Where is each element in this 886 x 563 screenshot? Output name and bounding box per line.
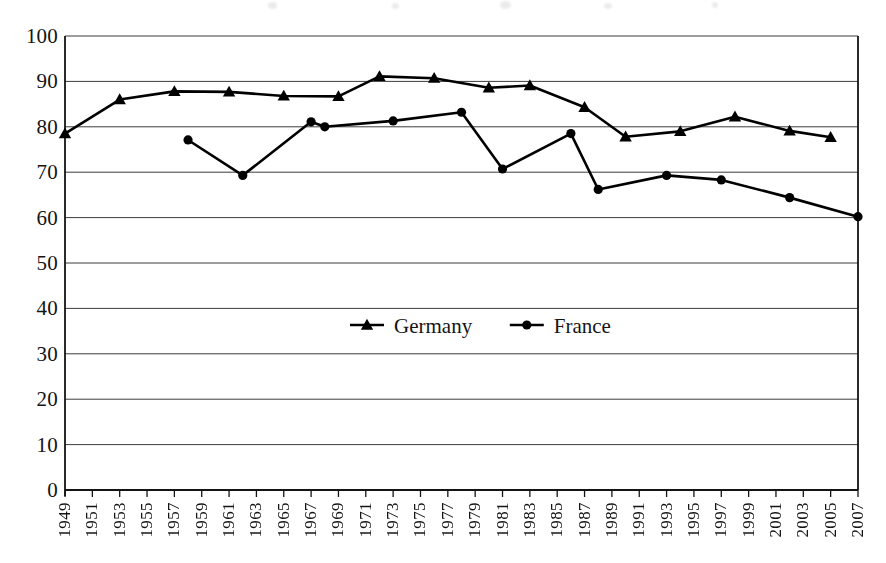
- x-tick-label: 1971: [357, 502, 374, 538]
- x-tick-label: 2003: [794, 502, 811, 538]
- x-tick-label: 1965: [275, 502, 292, 538]
- x-tick-label: 1953: [111, 502, 128, 538]
- x-tick-label: 1949: [56, 502, 73, 538]
- x-tick-label: 1999: [740, 502, 757, 538]
- x-tick-label: 2007: [849, 502, 866, 538]
- x-tick-label: 1951: [83, 502, 100, 538]
- x-tick-label: 1955: [138, 502, 155, 538]
- chart-figure: GermanyFrance 0102030405060708090100 194…: [0, 0, 886, 563]
- x-tick-label: 1995: [685, 502, 702, 538]
- x-tick-label: 2005: [822, 502, 839, 538]
- x-tick-label: 1987: [576, 502, 593, 538]
- x-tick-label: 1961: [220, 502, 237, 538]
- x-tick-label: 1977: [439, 502, 456, 538]
- x-tick-label: 1993: [658, 502, 675, 538]
- x-tick-label: 1973: [384, 502, 401, 538]
- x-tick-label: 1969: [329, 502, 346, 538]
- x-tick-label: 1981: [494, 502, 511, 538]
- x-tick-label: 1985: [548, 502, 565, 538]
- x-tick-label: 1989: [603, 502, 620, 538]
- x-tick-label: 1975: [411, 502, 428, 538]
- x-tick-label: 1997: [712, 502, 729, 538]
- x-tick-label: 1963: [247, 502, 264, 538]
- x-tick-label: 1957: [165, 502, 182, 538]
- x-tick-label: 1979: [466, 502, 483, 538]
- x-tick-label: 1959: [193, 502, 210, 538]
- x-tick-label: 1967: [302, 502, 319, 538]
- x-axis-tick-labels: 1949195119531955195719591961196319651967…: [0, 0, 886, 563]
- x-tick-label: 1983: [521, 502, 538, 538]
- x-tick-label: 2001: [767, 502, 784, 538]
- x-tick-label: 1991: [630, 502, 647, 538]
